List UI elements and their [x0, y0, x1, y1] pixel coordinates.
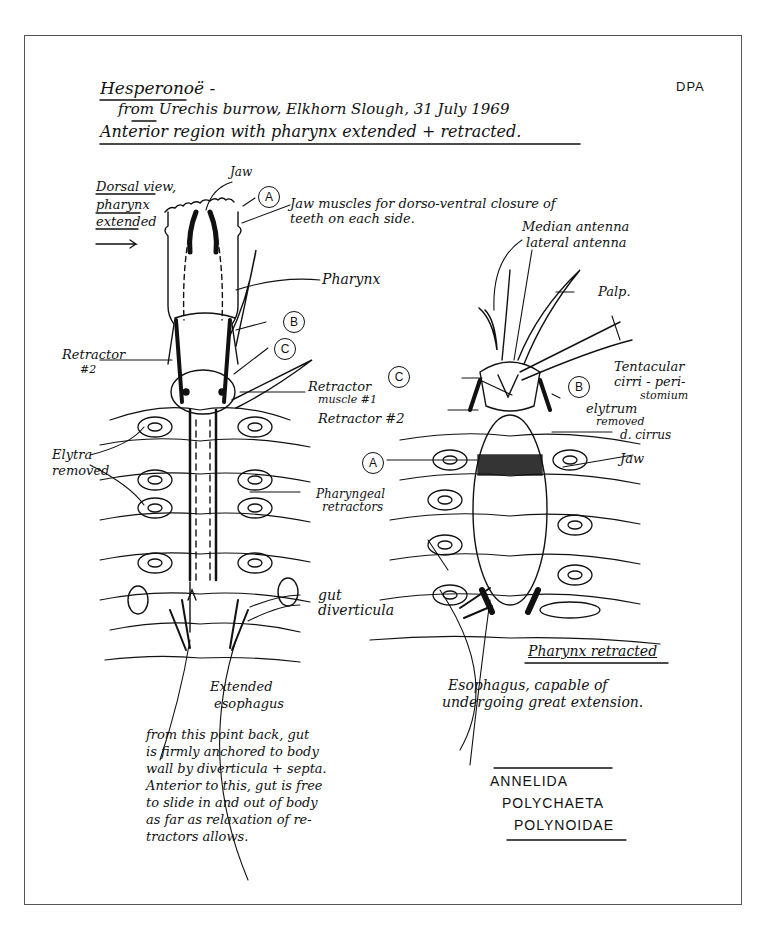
- label-jaw-muscles: Jaw muscles for dorso-ventral closure of: [290, 197, 556, 211]
- label-extended-esophagus: Extended: [210, 680, 272, 694]
- label-extended-esophagus-2: esophagus: [214, 697, 284, 711]
- taxonomy-class: POLYCHAETA: [502, 796, 604, 811]
- label-palp: Palp.: [598, 285, 631, 299]
- right-worm-drawing: [370, 270, 660, 644]
- marker-c-right: C: [388, 366, 410, 388]
- label-gut-diverticula: diverticula: [318, 603, 394, 618]
- label-pharyngeal-retractors-2: retractors: [322, 501, 383, 514]
- label-d-cirrus: d. cirrus: [620, 429, 671, 442]
- label-retractor-1-2: muscle #1: [318, 394, 377, 406]
- marker-a-right: A: [362, 452, 384, 474]
- label-gut: gut: [318, 588, 342, 603]
- label-elytrum-removed: removed: [596, 416, 645, 428]
- left-caption-line1: Dorsal view,: [96, 180, 176, 194]
- label-elytra: Elytra: [52, 448, 92, 462]
- label-lateral-antenna: lateral antenna: [526, 236, 627, 250]
- marker-b-left: B: [283, 311, 305, 333]
- label-tentacular-cirri-3: stomium: [640, 390, 688, 402]
- label-retractor-1: Retractor: [308, 380, 371, 394]
- left-worm-drawing: [100, 198, 312, 662]
- label-elytra-2: removed: [52, 464, 109, 478]
- label-esophagus-right: Esophagus, capable of: [448, 678, 608, 693]
- label-pharyngeal-retractors: Pharyngeal: [316, 488, 385, 501]
- label-tentacular-cirri-2: cirri - peri-: [614, 375, 685, 389]
- subtitle-location: from Urechis burrow, Elkhorn Slough, 31 …: [118, 102, 509, 118]
- taxonomy-family: POLYNOIDAE: [514, 818, 614, 833]
- label-retractor-2-left: Retractor: [62, 348, 125, 362]
- label-median-antenna: Median antenna: [522, 220, 629, 234]
- anatomy-note: from this point back, gut is firmly anch…: [146, 726, 327, 845]
- label-elytrum: elytrum: [586, 402, 637, 416]
- subtitle-description: Anterior region with pharynx extended + …: [100, 124, 521, 141]
- label-jaw-left: Jaw: [230, 166, 252, 179]
- label-jaw-muscles-2: teeth on each side.: [290, 212, 415, 226]
- label-pharynx-retracted: Pharynx retracted: [528, 644, 657, 659]
- label-retractor-2-num: #2: [80, 364, 96, 376]
- label-retractor-2-right: Retractor #2: [318, 412, 405, 426]
- marker-a-left: A: [258, 186, 280, 208]
- marker-b-right: B: [568, 376, 590, 398]
- title: Hesperonoë -: [100, 80, 215, 98]
- label-pharynx: Pharynx: [322, 272, 380, 287]
- taxonomy-phylum: ANNELIDA: [490, 774, 568, 789]
- label-tentacular-cirri: Tentacular: [614, 360, 684, 374]
- left-caption-line3: extended: [96, 215, 157, 229]
- marker-c-left: C: [274, 338, 296, 360]
- left-caption-line2: pharynx: [96, 198, 150, 212]
- label-esophagus-right-2: undergoing great extension.: [442, 695, 643, 710]
- label-jaw-right: Jaw: [620, 452, 644, 466]
- author-initials: DPA: [676, 80, 705, 94]
